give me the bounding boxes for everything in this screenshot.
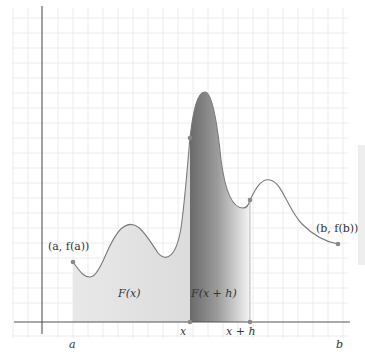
point-x-on-curve bbox=[188, 136, 193, 141]
label-area-F-x-h: F(x + h) bbox=[190, 287, 237, 300]
point-x-plus-h-on-curve bbox=[248, 198, 253, 203]
label-area-F-x: F(x) bbox=[117, 287, 140, 300]
tick-label-x: x bbox=[180, 325, 187, 338]
tick-label-x-plus-h: x + h bbox=[226, 325, 256, 338]
tick-label-a: a bbox=[69, 338, 76, 351]
tick-label-b: b bbox=[336, 338, 343, 351]
edge-artifact bbox=[358, 145, 365, 265]
point-b bbox=[336, 242, 341, 247]
point-a bbox=[71, 260, 76, 265]
area-accumulation-diagram: (a, f(a)) (b, f(b)) F(x) F(x + h) a x x … bbox=[0, 0, 365, 360]
label-point-a: (a, f(a)) bbox=[48, 240, 89, 253]
point-x-plus-h-on-axis bbox=[248, 320, 253, 325]
point-x-on-axis bbox=[188, 320, 193, 325]
label-point-b: (b, f(b)) bbox=[316, 222, 358, 235]
